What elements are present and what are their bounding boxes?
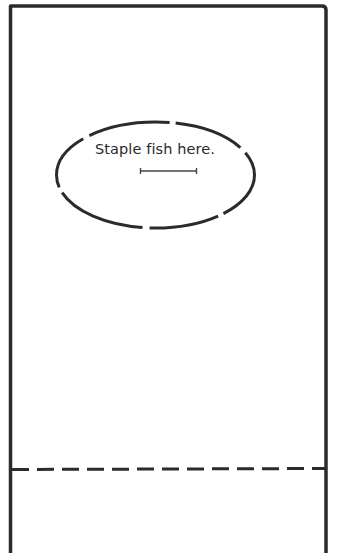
- staple-mark-icon: [141, 168, 197, 174]
- fold-line-dashed: [12, 469, 325, 470]
- worksheet-drawing: [0, 0, 341, 553]
- staple-instruction-text: Staple fish here.: [80, 141, 230, 157]
- page-frame: [11, 6, 327, 553]
- worksheet-page: Staple fish here.: [0, 0, 341, 553]
- staple-target-ellipse: [57, 122, 255, 228]
